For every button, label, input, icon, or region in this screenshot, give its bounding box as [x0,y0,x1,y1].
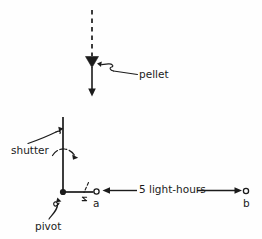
pivot-label: pivot [35,221,61,232]
pivot-leader-hook [54,202,59,206]
point-a-label: a [93,198,99,209]
point-b-marker-circle [243,188,248,193]
distance-measure-right-arrowhead-icon [235,187,243,193]
point-b-label: b [243,198,250,209]
diagram-canvas [0,0,262,239]
angle-marker-icon [82,197,86,200]
pellet-marker-triangle [86,57,99,68]
shutter-rotation-arrowhead-icon [72,154,78,159]
shutter-label: shutter [11,145,49,156]
pellet-motion-arrowhead-icon [88,89,96,97]
pellet-leader-line [114,71,138,75]
distance-label: 5 light-hours [139,184,206,195]
physics-diagram: pellet shutter pivot 5 light-hours a b [0,0,262,239]
pivot-leader-arrowhead-icon [56,198,61,203]
pellet-leader-arrowhead-icon [97,62,102,67]
pellet-leader-squiggle [102,64,114,71]
distance-measure-left-arrowhead-icon [103,187,111,193]
shutter-leader-line [28,132,56,144]
point-a-marker-circle [94,189,99,194]
pellet-label: pellet [139,69,169,80]
angle-tick-dashed [84,183,89,193]
